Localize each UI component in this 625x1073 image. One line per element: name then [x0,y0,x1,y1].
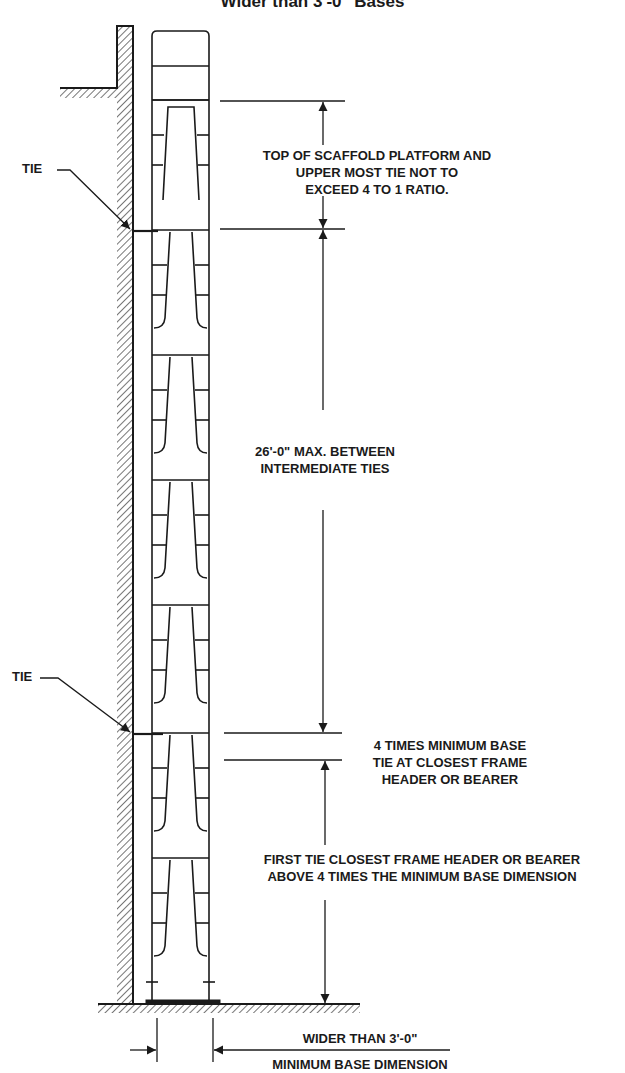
base-width-label: WIDER THAN 3'-0" [265,1030,455,1047]
guardrail [152,31,209,100]
top-ratio-note: TOP OF SCAFFOLD PLATFORM AND UPPER MOST … [222,147,532,198]
building-wall [60,26,133,1003]
intermediate-ties-note: 26'-0" MAX. BETWEEN INTERMEDIATE TIES [220,443,430,477]
min-base-label: MINIMUM BASE DIMENSION [225,1056,495,1073]
four-times-base-note: 4 TIMES MINIMUM BASE TIE AT CLOSEST FRAM… [345,737,555,788]
dimension-lines [130,101,450,1062]
ground [98,1000,360,1013]
scaffold-frames [146,100,215,1000]
tie-label-bottom: TIE [12,669,32,684]
first-tie-note: FIRST TIE CLOSEST FRAME HEADER OR BEARER… [222,851,622,885]
tie-label-top: TIE [22,161,42,176]
tie-lines [133,231,163,734]
